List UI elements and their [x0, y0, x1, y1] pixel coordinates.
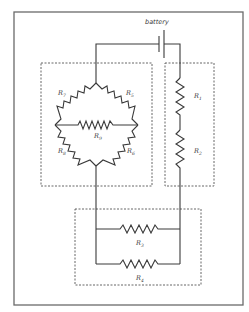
label-r8: R8 — [57, 147, 66, 156]
label-r4: R4 — [135, 274, 144, 283]
resistor-r4 — [96, 260, 180, 268]
label-r9: R9 — [93, 132, 102, 141]
resistor-r3 — [96, 225, 180, 233]
battery-label: battery — [145, 18, 169, 26]
label-r6: R6 — [126, 147, 135, 156]
outer-frame — [14, 12, 243, 305]
circuit-diagram: battery R7 R5 R9 R8 R6 R1 R2 — [0, 0, 249, 312]
resistor-r1 — [176, 78, 184, 130]
wire-top-left — [96, 44, 159, 83]
label-r7: R7 — [57, 89, 66, 98]
label-r3: R3 — [135, 239, 144, 248]
label-r5-top: R5 — [125, 89, 134, 98]
series-group-box — [165, 63, 214, 186]
resistor-r8 — [55, 125, 96, 166]
wire-top-right — [164, 44, 180, 78]
resistor-r6-top — [96, 83, 138, 125]
battery-icon — [159, 30, 164, 58]
resistor-r2 — [176, 130, 184, 209]
label-r1: R1 — [193, 92, 202, 101]
label-r2: R2 — [193, 147, 202, 156]
resistor-r5 — [55, 121, 138, 129]
resistor-r6 — [96, 125, 138, 166]
